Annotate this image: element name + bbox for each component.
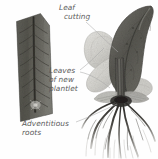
leaf-cutting-propagation-figure: Leafcutting Leavesof newplantlet Adventi… [0,0,158,159]
label-leaf-cutting-line1: Leaf [59,3,75,12]
adventitious-roots [82,102,155,158]
leaf-cutting-wedge [17,14,53,122]
label-roots-line2: roots [22,128,41,137]
label-leaf-cutting: Leafcutting [59,3,90,21]
label-roots-line1: Adventitious [22,119,69,128]
label-leaf-cutting-line2: cutting [59,12,90,21]
label-plantlet-line2: of new [49,75,74,84]
label-leaves-of-new-plantlet: Leavesof newplantlet [49,66,78,94]
label-plantlet-line3: plantlet [49,84,78,93]
label-plantlet-line1: Leaves [49,66,75,75]
label-adventitious-roots: Adventitiousroots [22,119,69,137]
